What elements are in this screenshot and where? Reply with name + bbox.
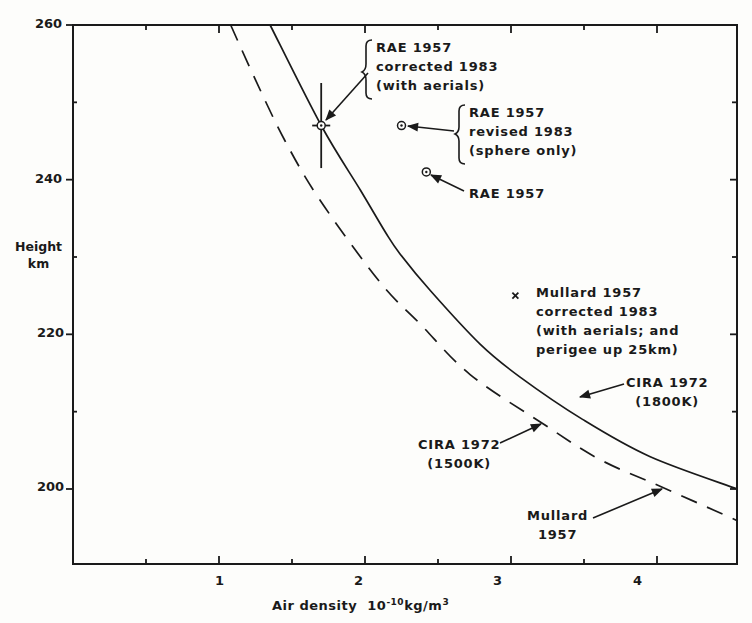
- annotation-line: (1800K): [626, 392, 708, 411]
- y-tick-label-200: 200: [37, 479, 64, 494]
- arrow-rae-1957: [431, 175, 464, 191]
- y-axis-label: Height km: [15, 238, 62, 272]
- annotation-mullard-corrected: Mullard 1957 corrected 1983 (with aerial…: [536, 283, 679, 359]
- y-tick-label-260: 260: [35, 16, 62, 31]
- y-axis-label-line1: Height: [15, 238, 62, 255]
- x-axis-label: Air density 10-10kg/m3: [272, 593, 449, 615]
- annotation-line: CIRA 1972: [418, 435, 500, 454]
- circle-marker-dot: [400, 124, 402, 126]
- annotation-rae-corrected: RAE 1957 corrected 1983 (with aerials): [376, 38, 498, 95]
- annotation-line: RAE 1957: [469, 103, 577, 122]
- annotation-line: CIRA 1972: [626, 373, 708, 392]
- annotation-line: revised 1983: [469, 122, 577, 141]
- annotation-rae-revised: RAE 1957 revised 1983 (sphere only): [469, 103, 577, 160]
- annotation-line: Mullard 1957: [536, 283, 679, 302]
- arrow-cira-1800: [580, 384, 624, 397]
- annotation-line: 1957: [527, 525, 588, 544]
- annotation-mullard-1957: Mullard 1957: [527, 506, 588, 544]
- x-tick-label-3: 3: [493, 573, 502, 588]
- curve-cira-1800k: [270, 25, 737, 489]
- annotation-line: (1500K): [418, 454, 500, 473]
- annotation-line: corrected 1983: [376, 57, 498, 76]
- annotation-cira-1500: CIRA 1972 (1500K): [418, 435, 500, 473]
- x-axis-label-text: Air density: [272, 598, 357, 613]
- arrow-cira-1500: [500, 424, 541, 443]
- annotation-line: perigee up 25km): [536, 340, 679, 359]
- annotation-line: (with aerials): [376, 76, 498, 95]
- annotation-line: corrected 1983: [536, 302, 679, 321]
- brace-rae-revised: [455, 105, 465, 164]
- circle-marker-dot: [320, 124, 322, 126]
- x-marker: [512, 293, 518, 299]
- circle-marker-dot: [425, 171, 427, 173]
- x-tick-label-4: 4: [633, 573, 642, 588]
- y-tick-label-240: 240: [35, 171, 62, 186]
- arrow-rae-corrected: [326, 73, 368, 120]
- annotation-line: (with aerials; and: [536, 321, 679, 340]
- arrow-rae-revised: [408, 126, 454, 131]
- annotation-line: RAE 1957: [469, 184, 545, 203]
- annotation-line: RAE 1957: [376, 38, 498, 57]
- brace-rae-corrected: [362, 40, 372, 99]
- arrow-mullard: [593, 489, 662, 518]
- x-tick-label-2: 2: [354, 573, 363, 588]
- y-tick-label-220: 220: [37, 325, 64, 340]
- annotation-line: (sphere only): [469, 141, 577, 160]
- x-axis-label-exp: -10: [386, 597, 404, 607]
- x-axis-label-base: 10: [367, 598, 386, 613]
- x-axis-label-unit-exp: 3: [442, 597, 449, 607]
- y-axis-label-line2: km: [15, 255, 62, 272]
- annotation-cira-1800: CIRA 1972 (1800K): [626, 373, 708, 411]
- x-axis-label-unit: kg/m: [404, 598, 442, 613]
- annotation-line: Mullard: [527, 506, 588, 525]
- x-tick-label-1: 1: [215, 573, 224, 588]
- annotation-rae-1957: RAE 1957: [469, 184, 545, 203]
